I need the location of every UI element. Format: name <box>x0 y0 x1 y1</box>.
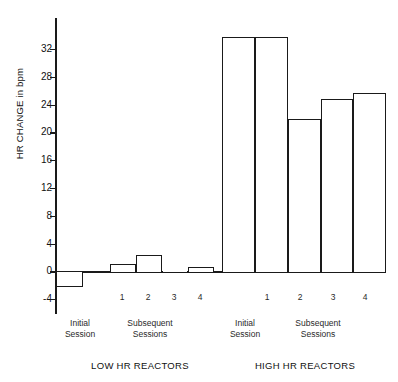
y-tick-mark <box>50 49 55 50</box>
bar <box>255 37 288 273</box>
x-tick-label: 3 <box>323 292 343 302</box>
group-label-low-subsequent: Subsequent Sessions <box>110 318 190 339</box>
y-tick-label: 24 <box>30 100 52 110</box>
bar <box>222 37 255 273</box>
y-tick-label: -4 <box>30 294 52 304</box>
y-tick-label: 16 <box>30 155 52 165</box>
y-tick-label: 20 <box>30 127 52 137</box>
y-tick-mark <box>50 299 55 300</box>
bar <box>188 267 214 273</box>
y-tick-label: 32 <box>30 44 52 54</box>
group-label-high-subsequent: Subsequent Sessions <box>278 318 358 339</box>
y-axis-title: HR CHANGE in bpm <box>14 59 25 169</box>
y-tick-label: 4 <box>30 239 52 249</box>
group-label-high-initial: Initial Session <box>205 318 285 339</box>
y-tick-mark <box>50 216 55 217</box>
y-tick-mark <box>50 77 55 78</box>
y-tick-mark <box>50 132 55 133</box>
y-tick-mark <box>50 105 55 106</box>
bar <box>353 93 386 272</box>
x-tick-label: 1 <box>257 292 277 302</box>
y-axis-line <box>55 18 57 314</box>
panel-title-high: HIGH HR REACTORS <box>225 360 385 371</box>
group-label-low-initial: Initial Session <box>40 318 120 339</box>
bar <box>110 264 136 272</box>
chart-figure: HR CHANGE in bpm -4048121620242832 12341… <box>0 0 398 382</box>
y-tick-label: 0 <box>30 266 52 276</box>
panel-title-low: LOW HR REACTORS <box>60 360 220 371</box>
y-tick-mark <box>50 244 55 245</box>
bar <box>136 255 162 273</box>
y-tick-mark <box>50 160 55 161</box>
y-tick-label: 12 <box>30 183 52 193</box>
y-tick-label: 28 <box>30 72 52 82</box>
bar <box>162 271 188 272</box>
bar <box>56 271 83 286</box>
bar <box>321 99 353 273</box>
bar <box>288 119 321 273</box>
x-tick-label: 4 <box>190 292 210 302</box>
y-tick-mark <box>50 188 55 189</box>
x-tick-label: 2 <box>138 292 158 302</box>
x-tick-label: 2 <box>290 292 310 302</box>
y-tick-label: 8 <box>30 211 52 221</box>
x-tick-label: 3 <box>164 292 184 302</box>
y-tick-mark <box>50 271 55 272</box>
x-tick-label: 1 <box>112 292 132 302</box>
x-tick-label: 4 <box>355 292 375 302</box>
